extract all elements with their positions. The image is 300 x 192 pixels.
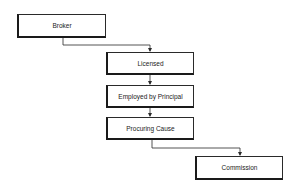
node-label: Procuring Cause [126,125,174,132]
node-broker: Broker [17,14,106,38]
node-label: Employed by Principal [118,93,182,100]
node-procuring-cause: Procuring Cause [106,117,194,140]
edge-broker-licensed [63,38,150,51]
node-commission: Commission [195,156,283,180]
node-employed-by-principal: Employed by Principal [106,85,194,108]
node-licensed: Licensed [106,52,194,75]
node-label: Licensed [137,60,163,67]
node-label: Broker [52,22,71,29]
node-label: Commission [222,164,258,171]
edge-procuring-commission [152,140,240,155]
